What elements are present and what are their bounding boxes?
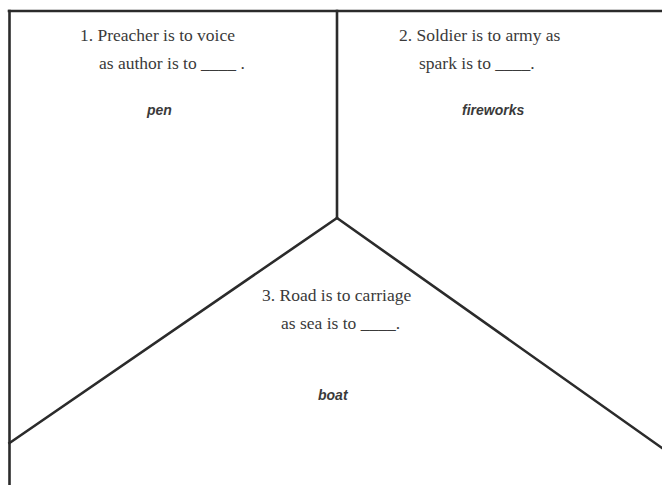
answer-3: boat: [318, 387, 348, 403]
question-2: 2. Soldier is to army as spark is to ___…: [399, 21, 560, 77]
question-1: 1. Preacher is to voice as author is to …: [80, 21, 245, 77]
question-1-line-1: 1. Preacher is to voice: [80, 21, 245, 49]
question-3-line-2: as sea is to ____.: [262, 309, 411, 337]
question-3: 3. Road is to carriage as sea is to ____…: [262, 281, 411, 337]
question-1-line-2: as author is to ____ .: [80, 49, 245, 77]
answer-2: fireworks: [462, 102, 524, 118]
answer-1: pen: [147, 102, 172, 118]
question-2-line-2: spark is to ____.: [399, 49, 560, 77]
question-2-line-1: 2. Soldier is to army as: [399, 21, 560, 49]
question-3-line-1: 3. Road is to carriage: [262, 281, 411, 309]
